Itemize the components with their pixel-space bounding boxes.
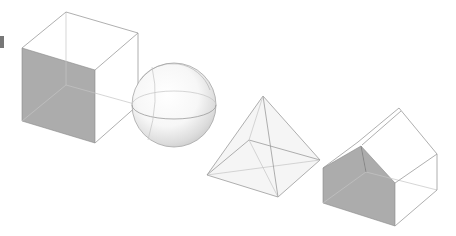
solids-diagram (0, 0, 456, 236)
sphere (132, 63, 216, 147)
house (323, 108, 437, 226)
house-front-gable (323, 146, 395, 226)
pyramid (207, 96, 320, 197)
cube (22, 12, 138, 143)
cube-front-face (22, 48, 95, 143)
